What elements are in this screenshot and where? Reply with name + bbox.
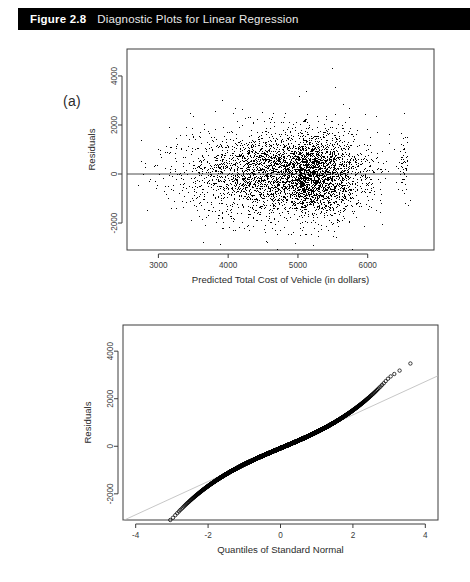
svg-text:0: 0 <box>278 531 283 540</box>
figure-header-bar: Figure 2.8 Diagnostic Plots for Linear R… <box>18 8 470 30</box>
figure-title: Diagnostic Plots for Linear Regression <box>97 13 298 25</box>
panel-b-plot: -4-2024Quantiles of Standard Normal-2000… <box>0 296 470 582</box>
svg-text:5000: 5000 <box>289 261 308 270</box>
svg-text:6000: 6000 <box>359 261 378 270</box>
svg-text:2000: 2000 <box>106 389 115 408</box>
svg-text:2: 2 <box>351 531 356 540</box>
svg-text:0: 0 <box>106 444 115 449</box>
svg-text:Residuals: Residuals <box>82 401 93 443</box>
svg-text:4000: 4000 <box>106 342 115 361</box>
panel-a-residuals-vs-fitted: (a) 3000400050006000Predicted Total Cost… <box>0 38 470 296</box>
svg-text:-2000: -2000 <box>110 212 119 233</box>
svg-text:4000: 4000 <box>219 261 238 270</box>
svg-text:4: 4 <box>423 531 428 540</box>
svg-text:-2: -2 <box>204 531 212 540</box>
svg-text:-2000: -2000 <box>106 483 115 504</box>
svg-text:Quantiles of Standard Normal: Quantiles of Standard Normal <box>217 544 343 555</box>
svg-text:3000: 3000 <box>149 261 168 270</box>
svg-text:2000: 2000 <box>110 115 119 134</box>
figure-number: Figure 2.8 <box>30 13 86 25</box>
svg-text:0: 0 <box>110 171 119 176</box>
svg-text:Predicted Total Cost of Vehicl: Predicted Total Cost of Vehicle (in doll… <box>192 274 369 285</box>
panel-b-normal-qq: (b) -4-2024Quantiles of Standard Normal-… <box>0 296 470 582</box>
svg-text:4000: 4000 <box>110 66 119 85</box>
panel-a-plot: 3000400050006000Predicted Total Cost of … <box>0 38 470 296</box>
svg-text:-4: -4 <box>132 531 140 540</box>
svg-text:Residuals: Residuals <box>86 128 97 170</box>
